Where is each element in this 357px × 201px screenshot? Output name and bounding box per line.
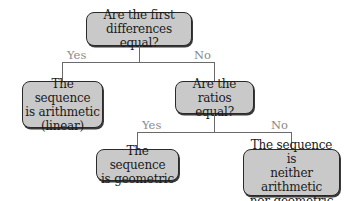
connector-q1-stem: [139, 46, 140, 62]
decision-first-differences: Are the first differences equal?: [86, 12, 192, 46]
connector-q2-branch: [137, 132, 292, 133]
connector-q1-branch: [62, 62, 215, 63]
flowchart-canvas: Are the first differences equal? Yes No …: [0, 0, 357, 201]
edge-label-q2-no: No: [271, 119, 288, 131]
connector-q2-stem: [214, 114, 215, 132]
outcome-geometric: The sequence is geometric: [96, 149, 179, 181]
outcome-neither: The sequence is neither arithmetic nor g…: [243, 149, 340, 196]
decision-ratios-equal: Are the ratios equal?: [175, 81, 254, 114]
edge-label-q1-yes: Yes: [67, 49, 86, 61]
outcome-arithmetic: The sequence is arithmetic (linear): [22, 81, 103, 128]
edge-label-q1-no: No: [194, 49, 211, 61]
edge-label-q2-yes: Yes: [142, 119, 161, 131]
